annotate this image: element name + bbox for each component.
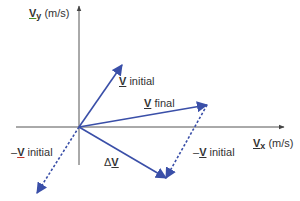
v-initial-arrow <box>79 65 122 127</box>
v-initial-label: V initial <box>119 75 154 87</box>
v-final-label: V final <box>144 97 175 109</box>
neg-v-initial-tip-arrow <box>166 105 207 178</box>
neg-v-initial-right-label: –V initial <box>193 146 235 158</box>
delta-v-arrow <box>79 127 166 178</box>
neg-v-initial-left-label: –V initial <box>11 146 53 158</box>
v-final-arrow <box>79 105 207 127</box>
y-axis-label: Vy (m/s) <box>29 7 69 22</box>
neg-v-initial-origin-arrow <box>37 127 79 193</box>
delta-v-label: ΔV <box>104 156 119 168</box>
x-axis-label: Vx (m/s) <box>253 137 293 152</box>
